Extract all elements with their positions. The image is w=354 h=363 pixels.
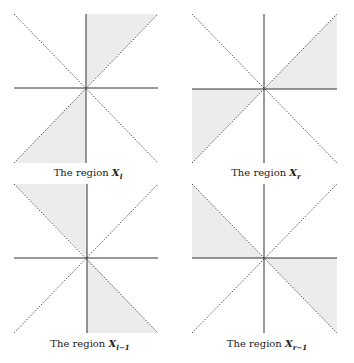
caption-symbol: X xyxy=(289,167,297,178)
caption-symbol: X xyxy=(285,338,293,349)
panel-x-l xyxy=(14,14,158,163)
caption-prefix: The region xyxy=(231,167,289,178)
caption-prefix: The region xyxy=(227,338,285,349)
panel-x-l-inverse xyxy=(14,184,158,333)
panel-x-r-inverse xyxy=(192,184,337,333)
caption-subscript: l xyxy=(120,172,123,181)
caption-x-r: The region Xr xyxy=(231,167,301,181)
caption-x-l-inverse: The region Xl−1 xyxy=(50,338,129,352)
shaded-region-lower xyxy=(87,258,158,333)
caption-x-l: The region Xl xyxy=(54,167,123,181)
caption-subscript: r xyxy=(297,172,301,181)
caption-subscript: r−1 xyxy=(293,343,307,352)
figure: The region Xl The region Xr The region X… xyxy=(0,0,354,363)
caption-prefix: The region xyxy=(54,167,112,178)
caption-symbol: X xyxy=(112,167,120,178)
caption-prefix: The region xyxy=(50,338,108,349)
diagram-canvas xyxy=(0,0,354,363)
caption-x-r-inverse: The region Xr−1 xyxy=(227,338,307,352)
caption-symbol: X xyxy=(108,338,116,349)
panel-x-r xyxy=(192,14,337,163)
shaded-region-upper xyxy=(86,14,158,88)
caption-subscript: l−1 xyxy=(116,343,129,352)
